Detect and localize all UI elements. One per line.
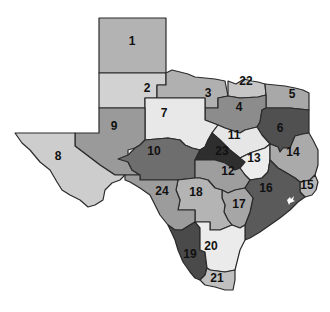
region-1[interactable] (99, 18, 166, 73)
region-5[interactable] (265, 84, 309, 110)
texas-region-map: 123456789101112131415161718192021222324 (0, 0, 330, 312)
region-22[interactable] (228, 79, 266, 98)
